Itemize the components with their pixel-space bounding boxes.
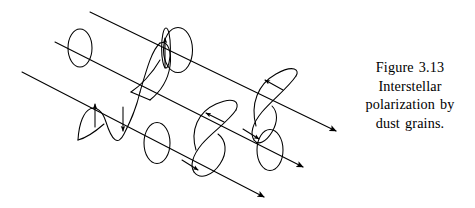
polarization-arrow-helix-upper-a [265,80,283,90]
helix-upper-right-lower-loop [254,106,277,143]
dust-grain-upper-left [68,29,92,67]
wave-vertical-upper-chord [131,92,150,100]
caption-line-4: dust grains. [346,114,474,133]
wave-vertical-upper-rise [140,43,160,92]
ray-line-lower [22,72,264,197]
caption-line-2: Interstellar [346,77,474,96]
ray-line-middle [55,42,303,167]
wave-plane-left-upper-lobe [78,92,140,140]
polarization-diagram-svg [0,0,345,208]
figure-page: Figure 3.13 Interstellar polarization by… [0,0,475,208]
figure-caption: Figure 3.13 Interstellar polarization by… [346,58,474,132]
helix-lower-loop [194,134,225,176]
figure-illustration [0,0,345,208]
wave-plane-left-chord [78,124,104,140]
dust-grain-middle [144,123,170,164]
caption-line-3: polarization by [346,95,474,114]
ray-line-upper [90,12,336,131]
helix-lower-front [194,100,237,150]
caption-line-1: Figure 3.13 [346,58,474,77]
polarization-arrow-helix-lower-a [206,113,224,122]
